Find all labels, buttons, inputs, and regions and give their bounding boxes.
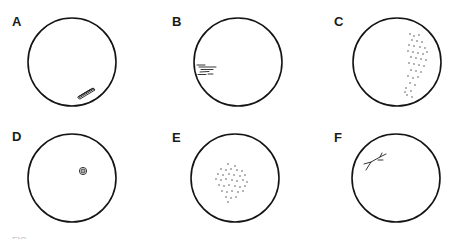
circle-d — [28, 134, 116, 222]
panel-label-a: A — [12, 14, 22, 29]
figure-caption: FIG — [12, 235, 27, 239]
panel-e: E — [172, 130, 279, 222]
branching-line-icon — [364, 153, 386, 170]
central-dots-icon — [215, 163, 247, 202]
figure-canvas: A B C — [0, 0, 453, 239]
panel-label-d: D — [12, 129, 21, 144]
circle-a — [28, 18, 116, 106]
circle-f — [352, 134, 440, 222]
panel-label-b: B — [172, 14, 181, 29]
oblique-lesion-icon — [78, 88, 95, 99]
circle-e — [191, 134, 279, 222]
horizontal-streaks-icon — [197, 65, 216, 75]
circle-c — [353, 18, 441, 106]
panel-d: D — [12, 129, 116, 222]
concentric-spot-icon — [79, 167, 86, 174]
circle-b — [194, 18, 282, 106]
panel-a: A — [12, 14, 116, 106]
panel-label-e: E — [172, 130, 181, 145]
panel-f: F — [334, 130, 440, 222]
panel-c: C — [334, 14, 441, 106]
panel-label-f: F — [334, 130, 342, 145]
panel-b: B — [172, 14, 282, 106]
peripheral-dots-icon — [404, 33, 427, 97]
panel-label-c: C — [334, 14, 344, 29]
